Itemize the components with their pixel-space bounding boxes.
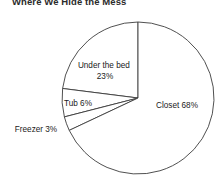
pie-slices <box>62 22 214 174</box>
pie-label-tub: Tub 6% <box>64 99 92 108</box>
pie-slice-under-the-bed[interactable] <box>63 22 138 98</box>
pie-label-under-the-bed-line2: 23% <box>97 72 113 81</box>
pie-label-closet-line1: Closet 68% <box>156 101 198 110</box>
pie-label-closet: Closet 68% <box>156 101 198 110</box>
pie-label-freezer-line1: Freezer 3% <box>15 125 57 134</box>
pie-label-tub-line1: Tub 6% <box>64 99 92 108</box>
pie-chart: Under the bed 23% Tub 6% Freezer 3% Clos… <box>0 0 224 192</box>
pie-label-freezer: Freezer 3% <box>15 125 57 134</box>
pie-label-under-the-bed-line1: Under the bed <box>78 61 130 70</box>
